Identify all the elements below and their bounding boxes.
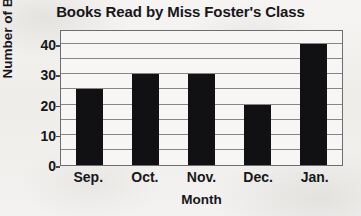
y-tick-mark xyxy=(56,166,60,168)
y-tick-label: 10 xyxy=(30,128,56,144)
bar xyxy=(188,74,215,165)
bar xyxy=(132,74,159,165)
x-tick-label: Nov. xyxy=(175,169,227,185)
bar xyxy=(244,105,271,165)
y-tick-mark xyxy=(56,45,60,47)
x-tick-label: Sep. xyxy=(62,169,114,185)
y-axis-tick-labels: 010203040 xyxy=(28,30,56,166)
y-axis-title: Number of Books xyxy=(0,0,15,79)
bar xyxy=(76,89,103,165)
y-tick-mark xyxy=(56,106,60,108)
plot-area xyxy=(60,30,343,166)
y-tick-label: 40 xyxy=(30,37,56,53)
x-tick-label: Jan. xyxy=(289,169,341,185)
x-axis-title: Month xyxy=(60,192,343,207)
bar xyxy=(300,44,327,165)
chart-title: Books Read by Miss Foster's Class xyxy=(0,3,361,20)
x-axis-tick-labels: Sep.Oct.Nov.Dec.Jan. xyxy=(60,169,343,185)
y-tick-mark xyxy=(56,75,60,77)
y-tick-mark xyxy=(56,136,60,138)
x-tick-label: Dec. xyxy=(232,169,284,185)
bar-series xyxy=(61,31,342,165)
y-tick-label: 30 xyxy=(30,67,56,83)
x-tick-label: Oct. xyxy=(119,169,171,185)
y-tick-label: 20 xyxy=(30,98,56,114)
y-tick-label: 0 xyxy=(30,158,56,174)
bar-chart: Books Read by Miss Foster's Class Number… xyxy=(0,0,361,216)
